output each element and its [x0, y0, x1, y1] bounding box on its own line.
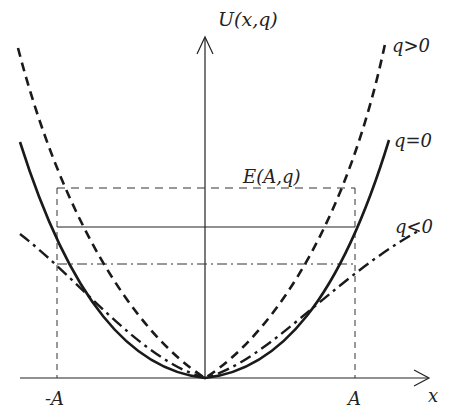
curve-q-negative: [20, 230, 420, 378]
potential-diagram: U(x,q) x -A A E(A,q) q>0 q=0 q<0: [0, 0, 456, 418]
x-axis-label: x: [428, 385, 438, 406]
curve-q-positive: [18, 44, 385, 378]
x-axis: [20, 370, 429, 386]
amplitude-guides: [57, 188, 355, 378]
legend-q-negative: q<0: [395, 216, 433, 237]
pos-A-label: A: [346, 388, 361, 409]
y-axis: [197, 37, 213, 378]
legend-q-positive: q>0: [392, 35, 430, 56]
y-axis-label: U(x,q): [218, 8, 278, 30]
legend-q-zero: q=0: [394, 130, 432, 151]
neg-A-label: -A: [45, 388, 64, 409]
energy-label: E(A,q): [242, 166, 300, 187]
